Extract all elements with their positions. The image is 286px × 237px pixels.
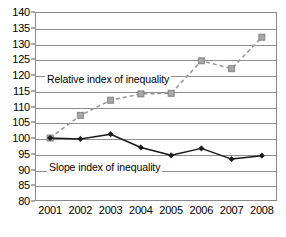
x-axis-tick-label: 2002 bbox=[69, 204, 93, 216]
data-point-marker bbox=[259, 34, 265, 40]
x-axis-tick-label: 2005 bbox=[159, 204, 183, 216]
data-point-marker bbox=[199, 146, 204, 151]
y-axis-tick-label: 125 bbox=[12, 53, 30, 65]
data-point-marker bbox=[229, 157, 234, 162]
y-axis-tick-label: 135 bbox=[12, 22, 30, 34]
y-axis-tick-label: 130 bbox=[12, 38, 30, 50]
series-line bbox=[50, 37, 262, 138]
data-point-marker bbox=[108, 97, 114, 103]
y-axis-tick-label: 90 bbox=[18, 164, 30, 176]
data-point-marker bbox=[77, 112, 83, 118]
data-point-marker bbox=[138, 91, 144, 97]
data-point-marker bbox=[169, 153, 174, 158]
data-point-marker bbox=[168, 90, 174, 96]
data-point-marker bbox=[78, 136, 83, 141]
data-point-marker bbox=[138, 145, 143, 150]
y-axis-tick-label: 85 bbox=[18, 179, 30, 191]
y-axis-tick-label: 140 bbox=[12, 6, 30, 18]
series-label-relative-index: Relative index of inequality bbox=[45, 73, 171, 85]
series-label-slope-index: Slope index of inequality bbox=[47, 161, 162, 173]
y-axis-tick-label: 100 bbox=[12, 132, 30, 144]
y-axis-tick-label: 115 bbox=[13, 85, 30, 97]
x-axis-tick-label: 2007 bbox=[220, 204, 244, 216]
data-point-marker bbox=[108, 132, 113, 137]
line-chart: 80859095100105110115120125130135140 Rela… bbox=[0, 0, 286, 237]
y-axis-tick-label: 105 bbox=[12, 116, 30, 128]
y-axis-tick-label: 80 bbox=[18, 195, 30, 207]
data-point-marker bbox=[229, 66, 235, 72]
y-axis-tick-label: 120 bbox=[12, 69, 30, 81]
data-point-marker bbox=[259, 153, 264, 158]
y-axis-tick-label: 110 bbox=[13, 101, 30, 113]
x-axis-tick-label: 2006 bbox=[190, 204, 214, 216]
y-axis: 80859095100105110115120125130135140 bbox=[0, 0, 35, 237]
x-axis-tick-label: 2008 bbox=[250, 204, 274, 216]
y-axis-tick-label: 95 bbox=[18, 148, 30, 160]
data-point-marker bbox=[198, 58, 204, 64]
x-axis: 20012002200320042005200620072008 bbox=[35, 204, 277, 224]
x-axis-tick-label: 2003 bbox=[99, 204, 123, 216]
x-axis-tick-label: 2001 bbox=[38, 204, 62, 216]
x-axis-tick-label: 2004 bbox=[129, 204, 153, 216]
